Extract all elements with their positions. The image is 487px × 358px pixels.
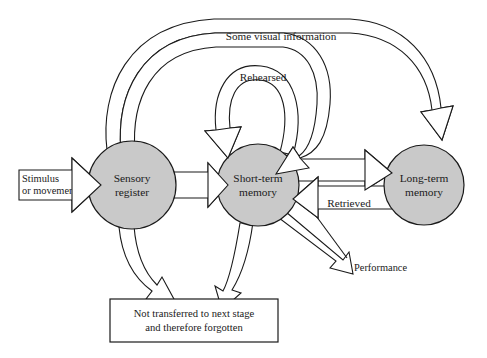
some-visual-information-label: Some visual information [226, 30, 337, 42]
node-long-term-memory: Long-term memory [384, 145, 464, 225]
rehearsed-label: Rehearsed [240, 71, 287, 83]
long-term-memory-label-2: memory [405, 186, 443, 198]
diagram-canvas: Stimulus or movement [0, 0, 487, 358]
sensory-register-label-1: Sensory [114, 172, 151, 184]
forgotten-line-1: Not transferred to next stage [134, 308, 255, 319]
forgotten-box: Not transferred to next stage and theref… [110, 299, 278, 342]
retrieved-label: Retrieved [327, 197, 371, 209]
forgotten-line-2: and therefore forgotten [145, 322, 243, 333]
short-term-memory-label-2: memory [239, 186, 277, 198]
sensory-register-label-2: register [115, 186, 149, 198]
long-term-memory-circle [384, 145, 464, 225]
memory-model-diagram: Stimulus or movement [0, 0, 487, 358]
short-term-memory-label-1: Short-term [233, 172, 282, 184]
stimulus-line-2: or movement [22, 185, 77, 196]
stimulus-line-1: Stimulus [22, 173, 59, 184]
performance-label: Performance [354, 262, 407, 273]
long-term-memory-label-1: Long-term [400, 172, 449, 184]
